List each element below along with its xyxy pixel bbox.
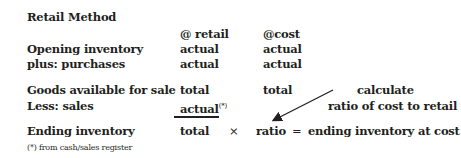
arrow-icon — [0, 0, 461, 158]
